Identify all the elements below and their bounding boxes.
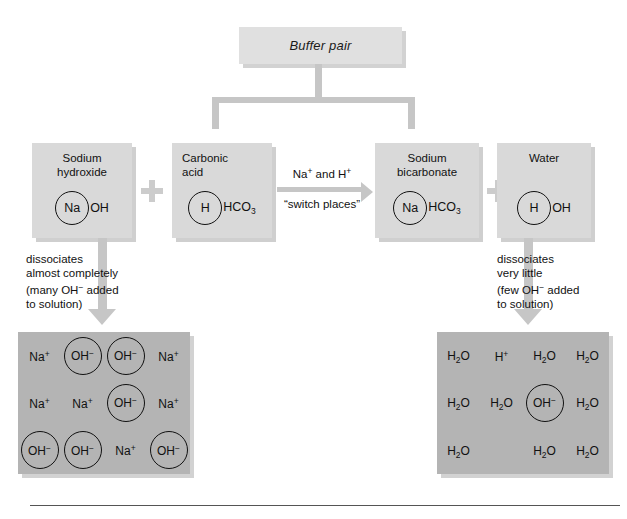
label-h-charge: + [346, 166, 351, 176]
left-solution-cell: OH− [150, 431, 188, 469]
right-solution-ion: H2O [533, 349, 556, 363]
ion-charge: + [174, 349, 179, 359]
label-and-h: and H [312, 168, 346, 180]
left-solution-circled-ion: OH− [150, 431, 188, 469]
ion-charge: − [46, 443, 51, 453]
formula-water: H OH [497, 191, 591, 225]
diagram-canvas: Buffer pair Sodium hydroxide Na OH Carbo… [0, 0, 627, 519]
right-solution-cell: H2O [447, 346, 470, 365]
left-solution-ion: OH− [157, 443, 180, 458]
right-solution-cell: H2O [533, 441, 556, 460]
ring-na: Na [55, 191, 89, 225]
reaction-arrow-shaft [277, 187, 361, 192]
ring-h: H [517, 191, 551, 225]
left-solution-cell: Na+ [158, 394, 178, 412]
caption-line-1: Water [529, 152, 559, 164]
note-line-1: dissociates [26, 253, 83, 265]
right-solution-cell: H2O [576, 393, 599, 412]
ion-subscript: 2 [456, 450, 461, 460]
right-solution-circled-ion: OH− [526, 384, 564, 422]
left-solution-circled-ion: OH− [107, 337, 145, 375]
solution-box-right: H2OH+H2OH2OH2OH2OOH−H2OH2OH2OH2O [437, 332, 609, 474]
ion-subscript: 2 [585, 402, 590, 412]
right-solution-ion: H2O [490, 396, 513, 410]
note-line-2: almost completely [26, 267, 118, 279]
right-solution-cell: H2O [576, 346, 599, 365]
note-line-3: (few OH− added [497, 284, 579, 296]
right-solution-ion: H2O [447, 444, 470, 458]
left-solution-ion: OH− [71, 443, 94, 458]
ion-charge: − [175, 443, 180, 453]
box-carbonic-acid: Carbonic acid H HCO3 [172, 143, 272, 238]
ion-charge: − [132, 348, 137, 358]
right-solution-cell: H2O [490, 393, 513, 412]
right-solution-cell: H2O [447, 441, 470, 460]
right-solution-ion: H2O [576, 444, 599, 458]
left-solution-ion: OH− [114, 348, 137, 363]
tail-oh: OH [90, 201, 109, 215]
right-solution-cell: OH− [526, 384, 564, 422]
tail-text: HCO [428, 200, 456, 214]
tail-hco3: HCO3 [223, 200, 256, 216]
note-line-2: very little [497, 267, 542, 279]
left-solution-ion: Na+ [72, 397, 92, 411]
caption-line-1: Sodium [63, 152, 102, 164]
right-solution-ion: H+ [495, 350, 509, 364]
label-na: Na [293, 168, 308, 180]
tail-subscript: 3 [251, 206, 256, 216]
ion-subscript: 2 [542, 355, 547, 365]
left-solution-ion: Na+ [115, 444, 135, 458]
note-line-3-pre: (many OH [26, 284, 78, 296]
box-caption-water: Water [497, 152, 591, 166]
right-solution-ion: OH− [533, 395, 556, 410]
note-line-3: (many OH− added [26, 284, 119, 296]
ring-na: Na [393, 191, 427, 225]
ion-charge: + [131, 443, 136, 453]
left-solution-circled-ion: OH− [21, 431, 59, 469]
caption-line-1: Sodium [408, 152, 447, 164]
right-solution-ion: H2O [447, 396, 470, 410]
note-line-1: dissociates [497, 253, 554, 265]
right-solution-ion: H2O [576, 396, 599, 410]
ion-charge: + [45, 349, 50, 359]
ion-subscript: 2 [456, 402, 461, 412]
reaction-arrow-label-bottom: “switch places” [276, 198, 368, 210]
ion-charge: − [132, 395, 137, 405]
ion-subscript: 2 [542, 450, 547, 460]
left-solution-cell: OH− [107, 384, 145, 422]
left-solution-circled-ion: OH− [64, 431, 102, 469]
buffer-pair-label: Buffer pair [289, 38, 351, 53]
connector-drop-right [408, 97, 415, 129]
box-sodium-bicarbonate: Sodium bicarbonate Na HCO3 [375, 143, 479, 238]
tail-hco3: HCO3 [428, 200, 461, 216]
formula-sodium-bicarbonate: Na HCO3 [375, 191, 479, 225]
note-line-4: to solution) [497, 298, 553, 310]
footer-divider [30, 505, 620, 506]
left-dissociation-note: dissociates almost completely (many OH− … [26, 252, 119, 311]
left-solution-cell: OH− [64, 431, 102, 469]
connector-crossbar [212, 97, 415, 103]
solution-grid-left: Na+OH−OH−Na+Na+Na+OH−Na+OH−OH−Na+OH− [18, 332, 190, 474]
ion-charge: + [45, 396, 50, 406]
left-solution-cell: OH− [107, 337, 145, 375]
right-solution-ion: H2O [576, 349, 599, 363]
tail-text: HCO [223, 200, 251, 214]
formula-sodium-hydroxide: Na OH [32, 191, 132, 225]
left-solution-ion: Na+ [158, 350, 178, 364]
right-solution-cell: H2O [533, 346, 556, 365]
ion-subscript: 2 [456, 355, 461, 365]
left-solution-cell: Na+ [158, 347, 178, 365]
left-solution-cell: OH− [64, 337, 102, 375]
plus-icon-1 [141, 180, 163, 202]
ion-charge: + [503, 349, 508, 359]
ion-charge: − [89, 348, 94, 358]
tail-oh: OH [552, 201, 571, 215]
left-solution-cell: Na+ [72, 394, 92, 412]
caption-line-2: acid [182, 166, 203, 178]
box-sodium-hydroxide: Sodium hydroxide Na OH [32, 143, 132, 238]
left-solution-cell: OH− [21, 431, 59, 469]
right-solution-cell: H+ [495, 347, 509, 365]
box-caption-sodium-hydroxide: Sodium hydroxide [32, 152, 132, 179]
ion-subscript: 2 [585, 450, 590, 460]
formula-carbonic-acid: H HCO3 [172, 191, 272, 225]
